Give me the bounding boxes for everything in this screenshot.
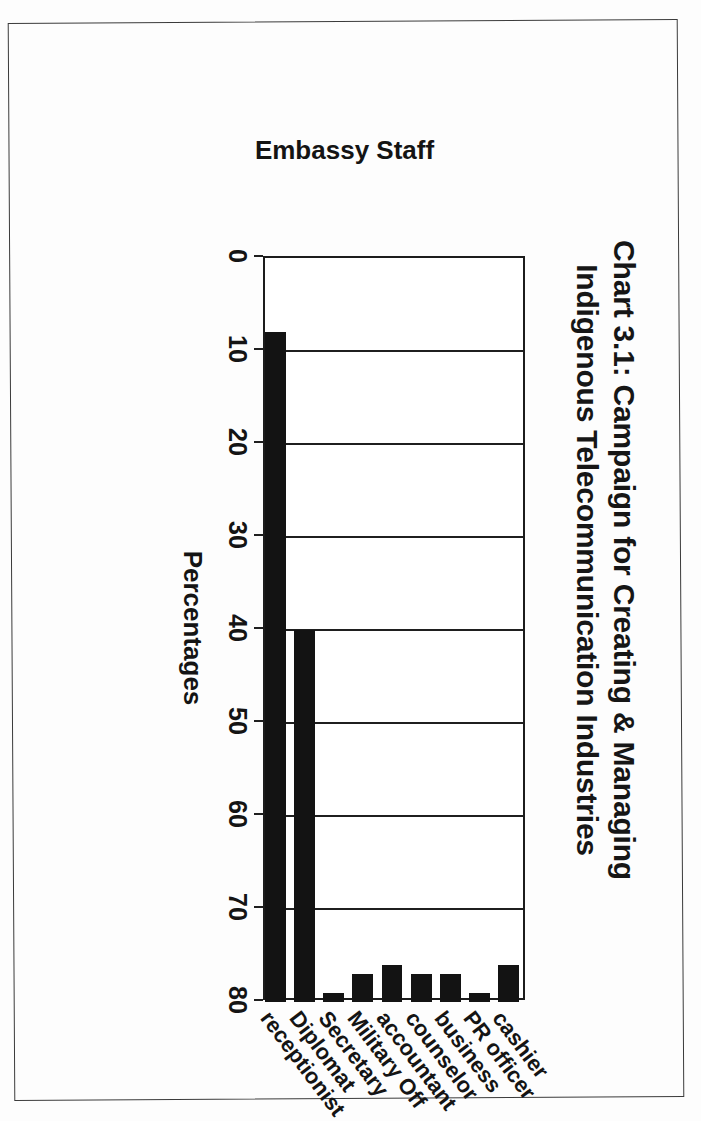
value-axis-tick-label: 10 [223,319,252,379]
value-axis-tick [254,348,263,350]
value-axis-tick-label: 30 [223,505,252,565]
bar [440,974,461,1002]
value-axis-tick-label: 40 [223,598,252,658]
value-axis-tick-label: 50 [223,691,252,751]
scanned-page: Chart 3.1: Campaign for Creating & Manag… [0,0,701,1121]
figure-rotation-wrapper: Chart 3.1: Campaign for Creating & Manag… [40,60,660,1060]
bar [323,993,344,1002]
gridline [265,350,523,352]
value-axis-tick [254,441,263,443]
bar [498,965,519,1002]
category-axis-title: Embassy Staff [255,135,435,166]
value-axis-tick-label: 20 [223,412,252,472]
value-axis-tick [254,627,263,629]
chart-title-line-1: Chart 3.1: Campaign for Creating & Manag… [608,240,641,880]
value-axis-tick-label: 60 [223,784,252,844]
value-axis-tick [254,999,263,1001]
value-axis-tick [254,534,263,536]
value-axis-tick [254,720,263,722]
value-axis-tick [254,813,263,815]
value-axis-title: Percentages [177,256,208,1000]
bar [411,974,432,1002]
value-axis-tick-label: 0 [223,226,252,286]
value-axis-tick-label: 80 [223,970,252,1030]
value-axis-tick-label: 70 [223,877,252,937]
bar [265,332,286,1002]
value-axis-tick [254,906,263,908]
bar [382,965,403,1002]
gridline [265,443,523,445]
bar [294,630,315,1002]
value-axis-tick [254,255,263,257]
bar [469,993,490,1002]
chart-title-line-2: Indigenous Telecommunication Industries [569,100,606,1020]
gridline [265,536,523,538]
plot-area [263,256,525,1000]
value-axis: 01020304050607080 [223,256,263,1000]
chart-title: Chart 3.1: Campaign for Creating & Manag… [569,100,642,1020]
bar [352,974,373,1002]
chart-figure: Chart 3.1: Campaign for Creating & Manag… [40,60,660,1060]
